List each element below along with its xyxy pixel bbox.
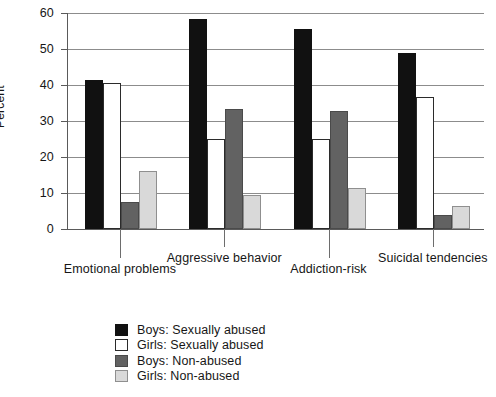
bar [189,19,207,229]
category-tick [329,229,330,258]
y-axis-title: Percent [0,85,7,128]
y-tick-30 [61,121,68,122]
category-tick [433,229,434,247]
bar [103,83,121,229]
legend-swatch-icon [115,339,128,351]
legend-swatch-icon [115,355,128,367]
legend-swatch-icon [115,324,128,336]
bar [207,139,225,229]
y-axis-tick-labels: 0102030405060 [0,13,54,229]
category-label: Emotional problems [64,262,176,276]
category-label: Aggressive behavior [167,251,282,265]
y-tick-label-10: 10 [40,186,54,200]
gridline-0 [68,229,484,230]
legend-item: Boys: Non-abused [115,353,345,369]
bar [330,111,348,229]
legend-label: Girls: Non-abused [137,369,239,383]
bar [243,195,261,229]
y-tick-label-0: 0 [47,222,54,236]
bar [121,202,139,229]
legend-item: Girls: Sexually abused [115,338,345,354]
y-tick-0 [61,229,68,230]
bar [416,97,434,229]
y-tick-10 [61,193,68,194]
y-tick-40 [61,85,68,86]
category-tick [224,229,225,247]
bar [398,53,416,229]
y-tick-60 [61,13,68,14]
y-tick-label-40: 40 [40,78,54,92]
bar [294,29,312,229]
category-tick [120,229,121,258]
bar [139,171,157,229]
bar-group [381,13,485,229]
legend-label: Girls: Sexually abused [137,338,264,352]
plot-area [67,13,484,229]
bar [452,206,470,229]
y-tick-label-30: 30 [40,114,54,128]
bar [225,109,243,229]
y-tick-label-60: 60 [40,6,54,20]
legend-swatch-icon [115,370,128,382]
legend-label: Boys: Non-abused [137,354,241,368]
bar [312,139,330,229]
chart-legend: Boys: Sexually abusedGirls: Sexually abu… [115,322,345,384]
bar-group [68,13,172,229]
category-label: Suicidal tendencies [378,251,488,265]
bar [85,80,103,229]
bar-chart-figure: 0102030405060 Percent Emotional problems… [0,0,496,397]
bar-group [277,13,381,229]
bar [348,188,366,229]
legend-item: Boys: Sexually abused [115,322,345,338]
bar [434,215,452,229]
y-tick-20 [61,157,68,158]
legend-label: Boys: Sexually abused [137,323,266,337]
category-label: Addiction-risk [290,262,366,276]
legend-item: Girls: Non-abused [115,369,345,385]
y-tick-50 [61,49,68,50]
bar-group [172,13,276,229]
y-tick-label-50: 50 [40,42,54,56]
y-tick-label-20: 20 [40,150,54,164]
